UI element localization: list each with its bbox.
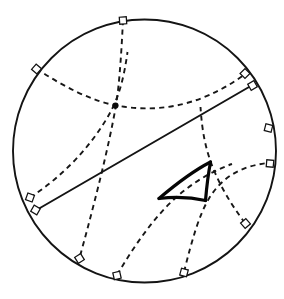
right-angle-marker-east-upper bbox=[264, 124, 272, 132]
boundary-circle bbox=[13, 20, 276, 283]
triangle-edge-right-to-apex bbox=[206, 162, 211, 201]
geodesic-triangle-group bbox=[159, 162, 211, 201]
triangle-edge-left-to-right bbox=[159, 197, 206, 200]
geodesic-upper-left-to-bottom-center bbox=[80, 20, 124, 258]
intersection-point-dot bbox=[112, 102, 118, 108]
right-angle-marker-top bbox=[119, 17, 126, 24]
geodesic-solid-diameter bbox=[37, 85, 253, 210]
figure-canvas bbox=[0, 0, 284, 299]
right-angle-marker-west-solid bbox=[31, 205, 41, 215]
dashed-geodesics-group bbox=[30, 20, 268, 275]
geodesic-bottom-center-to-east bbox=[184, 163, 268, 272]
poincare-disk-figure bbox=[0, 0, 284, 299]
intersection-dots-group bbox=[112, 102, 118, 108]
right-angle-marker-east-lower bbox=[266, 160, 274, 168]
triangle-edge-apex-to-left bbox=[159, 162, 211, 199]
right-angle-marker-south-east-low bbox=[180, 268, 189, 277]
right-angle-marker-west-dashed bbox=[26, 193, 35, 202]
right-angle-marker-southwest bbox=[75, 254, 85, 264]
right-angle-marker-south-center bbox=[113, 271, 121, 279]
disk-boundary-group bbox=[13, 20, 276, 283]
solid-geodesics-group bbox=[37, 85, 253, 210]
geodesic-northwest-to-east bbox=[37, 69, 247, 109]
geodesic-bottom-left-to-triangle-apex bbox=[117, 164, 232, 275]
